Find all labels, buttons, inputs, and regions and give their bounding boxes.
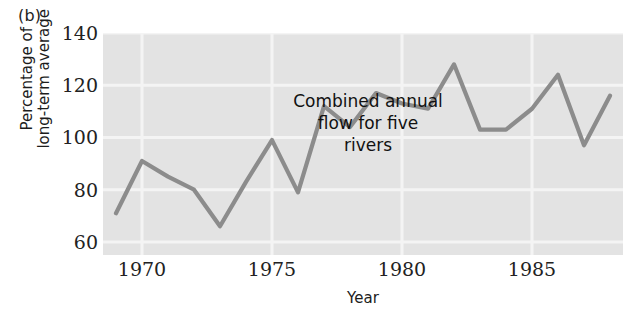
x-tick-1980: 1980	[362, 258, 442, 280]
y-tick-100: 100	[46, 126, 98, 148]
x-tick-1970: 1970	[102, 258, 182, 280]
y-axis-tick-labels: 6080100120140	[40, 0, 98, 314]
y-tick-140: 140	[46, 22, 98, 44]
chart-figure: (b) Percentage of long-term average 6080…	[0, 0, 632, 314]
y-tick-80: 80	[46, 179, 98, 201]
plot-area: Combined annual flow for five rivers	[103, 33, 623, 255]
chart-annotation: Combined annual flow for five rivers	[253, 91, 483, 156]
y-tick-120: 120	[46, 74, 98, 96]
x-tick-1985: 1985	[492, 258, 572, 280]
x-axis-title: Year	[103, 289, 623, 307]
x-tick-1975: 1975	[232, 258, 312, 280]
y-tick-60: 60	[46, 231, 98, 253]
